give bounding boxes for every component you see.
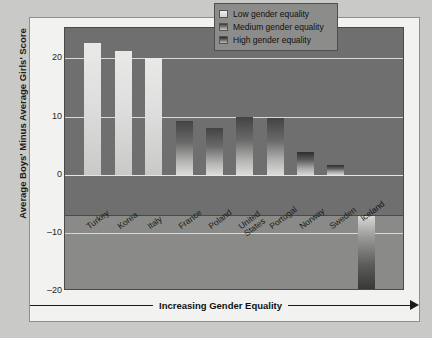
bar-poland [206, 128, 223, 175]
x-label-italy: Italy [146, 215, 164, 232]
bar-norway [297, 152, 314, 175]
legend-label-high: High gender equality [233, 35, 311, 45]
x-axis-caption: Increasing Gender Equality [30, 296, 419, 314]
y-tick-10: 10 [52, 111, 62, 121]
bar-france [176, 121, 193, 175]
y-tick-neg10: –10 [47, 227, 62, 237]
legend-item-medium: Medium gender equality [219, 20, 333, 33]
bar-sweden [327, 165, 344, 175]
axis-line-left [30, 305, 153, 306]
legend-label-low: Low gender equality [233, 9, 309, 19]
chart-figure: Average Boys' Minus Average Girls' Score… [0, 0, 432, 338]
arrow-right-icon [410, 300, 419, 310]
bar-korea [115, 51, 132, 175]
y-tick-20: 20 [52, 52, 62, 62]
chart-legend: Low gender equality Medium gender equali… [214, 3, 338, 51]
y-tick-neg20: –20 [47, 285, 62, 295]
bar-portugal [267, 118, 284, 175]
x-axis-label: Increasing Gender Equality [153, 300, 288, 311]
y-axis-title: Average Boys' Minus Average Girls' Score [17, 24, 28, 224]
legend-swatch-high-icon [219, 36, 228, 44]
y-tick-0: 0 [57, 169, 62, 179]
bar-united-states [236, 117, 253, 175]
x-axis-category-labels: TurkeyKoreaItalyFrancePolandUnited State… [64, 216, 404, 278]
bar-italy [145, 58, 162, 175]
positive-bars [65, 28, 403, 215]
legend-swatch-low-icon [219, 10, 228, 18]
legend-swatch-medium-icon [219, 23, 228, 31]
legend-label-medium: Medium gender equality [233, 22, 324, 32]
bar-turkey [84, 43, 101, 175]
axis-line-right [288, 305, 411, 306]
plot-area-positive [64, 27, 404, 216]
legend-item-low: Low gender equality [219, 7, 333, 20]
y-axis-ticks: 20 10 0 –10 –20 [29, 17, 62, 322]
legend-item-high: High gender equality [219, 33, 333, 46]
